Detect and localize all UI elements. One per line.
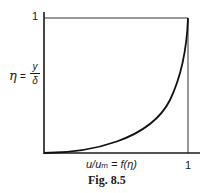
y-tick-1: 1 [32,11,38,22]
velocity-profile-curve [44,18,188,153]
x-axis-label-rest: = f(η) [108,158,137,170]
x-axis-label: u/um = f(η) [86,159,137,170]
y-axis-eta-symbol: η [9,68,17,83]
y-axis-fraction: y δ [30,61,40,86]
figure-caption: Fig. 8.5 [88,173,126,188]
x-axis-label-subscript: m [101,161,108,170]
y-denominator: δ [30,75,40,86]
y-numerator: y [30,61,40,72]
x-axis-label-main: u/u [86,158,101,170]
fraction-bar [30,73,40,74]
x-tick-1: 1 [185,160,191,171]
y-axis-equals: = [20,71,26,82]
